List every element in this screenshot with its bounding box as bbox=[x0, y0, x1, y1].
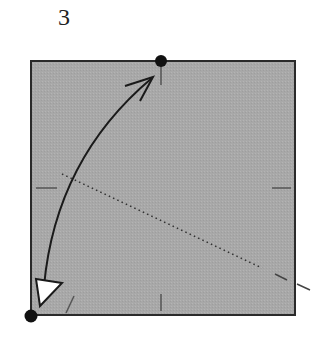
origami-diagram bbox=[0, 0, 327, 344]
top-center-point bbox=[155, 55, 167, 67]
bottom-left-corner-point bbox=[25, 310, 38, 323]
paper-square bbox=[31, 61, 295, 315]
